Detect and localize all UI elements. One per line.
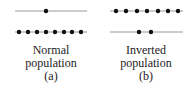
caption-tag: (b)	[106, 70, 186, 83]
particle-dot	[44, 9, 48, 13]
particle-dot	[176, 9, 180, 13]
particle-dot	[53, 30, 57, 34]
caption-normal-population: Normal population (a)	[11, 44, 91, 83]
particle-dot	[44, 30, 48, 34]
caption-tag: (a)	[11, 70, 91, 83]
particle-dot	[137, 30, 141, 34]
particle-dot	[26, 30, 30, 34]
panel-inverted-population	[110, 9, 183, 34]
particle-dot	[166, 9, 170, 13]
caption-inverted-population: Inverted population (b)	[106, 44, 186, 83]
particle-dot	[145, 9, 149, 13]
particle-dot	[156, 9, 160, 13]
panel-normal-population	[15, 9, 87, 34]
particle-dot	[70, 30, 74, 34]
particle-dot	[135, 9, 139, 13]
particle-dot	[79, 30, 83, 34]
upper-level-particles	[44, 9, 48, 13]
particle-dot	[35, 30, 39, 34]
particle-dot	[62, 30, 66, 34]
particle-dot	[149, 30, 153, 34]
particle-dot	[114, 9, 118, 13]
particle-dot	[17, 30, 21, 34]
particle-dot	[124, 9, 128, 13]
